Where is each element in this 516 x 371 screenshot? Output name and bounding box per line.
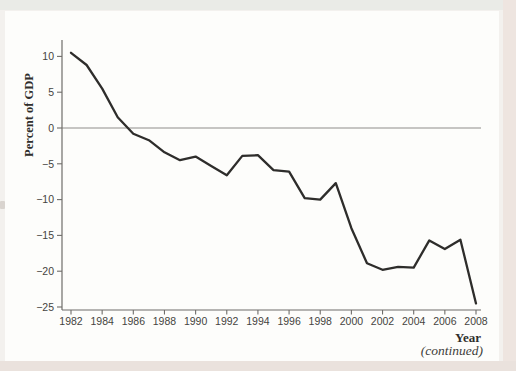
page-right-edge bbox=[503, 0, 516, 361]
x-tick-label-1990: 1990 bbox=[184, 315, 208, 327]
y-tick-label--5: −5 bbox=[42, 158, 54, 170]
x-tick-label-2000: 2000 bbox=[340, 315, 364, 327]
page: 1050−5−10−15−20−251982198419861988199019… bbox=[0, 0, 516, 371]
y-tick-label-10: 10 bbox=[42, 50, 54, 62]
y-tick-label--20: −20 bbox=[36, 265, 54, 277]
x-tick-label-2006: 2006 bbox=[433, 315, 457, 327]
x-tick-label-1986: 1986 bbox=[122, 315, 146, 327]
y-tick-label-5: 5 bbox=[48, 86, 54, 98]
x-tick-label-1982: 1982 bbox=[59, 315, 83, 327]
page-bottom-edge bbox=[0, 361, 516, 371]
x-tick-label-1994: 1994 bbox=[246, 315, 270, 327]
x-tick-label-1988: 1988 bbox=[153, 315, 177, 327]
figure-card: 1050−5−10−15−20−251982198419861988199019… bbox=[5, 11, 499, 361]
page-top-edge bbox=[0, 0, 516, 10]
y-tick-label--25: −25 bbox=[36, 301, 54, 313]
x-tick-label-1984: 1984 bbox=[90, 315, 114, 327]
gdp-line-chart: 1050−5−10−15−20−251982198419861988199019… bbox=[5, 11, 499, 361]
x-tick-label-2008: 2008 bbox=[464, 315, 488, 327]
y-tick-label--10: −10 bbox=[36, 193, 54, 205]
y-tick-label--15: −15 bbox=[36, 229, 54, 241]
x-tick-label-1996: 1996 bbox=[277, 315, 301, 327]
y-axis-title: Percent of GDP bbox=[22, 73, 36, 157]
continued-note: (continued) bbox=[421, 343, 483, 359]
y-tick-label-0: 0 bbox=[48, 122, 54, 134]
x-tick-label-1998: 1998 bbox=[309, 315, 333, 327]
x-tick-label-2004: 2004 bbox=[402, 315, 426, 327]
x-tick-label-2002: 2002 bbox=[371, 315, 395, 327]
gdp-series-line bbox=[71, 53, 476, 304]
x-tick-label-1992: 1992 bbox=[215, 315, 239, 327]
